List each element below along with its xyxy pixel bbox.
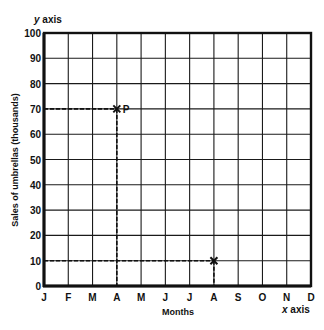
grid-lines bbox=[44, 33, 311, 286]
y-tick-label: 100 bbox=[24, 28, 41, 39]
x-tick-label: N bbox=[283, 292, 290, 303]
y-tick-label: 90 bbox=[30, 53, 42, 64]
y-tick-label: 60 bbox=[30, 129, 42, 140]
x-tick-label: M bbox=[88, 292, 96, 303]
x-tick-label: J bbox=[41, 292, 47, 303]
x-tick-label: A bbox=[113, 292, 120, 303]
guide-lines bbox=[44, 109, 214, 286]
x-axis-tag: x axis bbox=[281, 304, 310, 315]
x-axis-title: Months bbox=[162, 307, 194, 317]
x-tick-label: J bbox=[163, 292, 169, 303]
x-tick-label: J bbox=[187, 292, 193, 303]
x-tick-label: A bbox=[210, 292, 217, 303]
y-tick-label: 40 bbox=[30, 180, 42, 191]
y-axis-title: Sales of umbrellas (thousands) bbox=[10, 93, 20, 227]
umbrella-sales-chart: 0102030405060708090100 JFMAMJJASOND P y … bbox=[0, 0, 324, 330]
x-tick-label: M bbox=[137, 292, 145, 303]
y-tick-label: 10 bbox=[30, 256, 42, 267]
y-tick-label: 30 bbox=[30, 205, 42, 216]
x-tick-label: D bbox=[307, 292, 314, 303]
y-tick-label: 70 bbox=[30, 104, 42, 115]
x-tick-label: F bbox=[65, 292, 71, 303]
x-tick-label: O bbox=[259, 292, 267, 303]
y-tick-label: 50 bbox=[30, 155, 42, 166]
y-tick-label: 0 bbox=[35, 281, 41, 292]
x-tick-labels: JFMAMJJASOND bbox=[41, 292, 314, 303]
y-tick-labels: 0102030405060708090100 bbox=[24, 28, 41, 292]
y-tick-label: 80 bbox=[30, 79, 42, 90]
x-axis-tag-word: axis bbox=[288, 304, 311, 315]
x-tick-label: S bbox=[235, 292, 242, 303]
y-axis-tag: y axis bbox=[33, 14, 62, 25]
y-tick-label: 20 bbox=[30, 230, 42, 241]
point-label: P bbox=[123, 104, 130, 115]
y-axis-tag-word: axis bbox=[40, 14, 63, 25]
